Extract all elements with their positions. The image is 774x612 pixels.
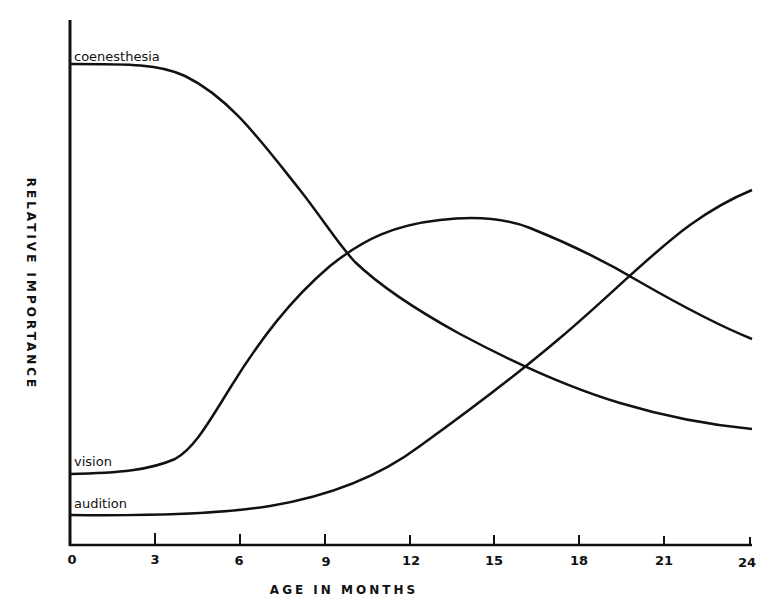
label-vision: vision bbox=[74, 454, 112, 469]
coenesthesia-curve bbox=[70, 64, 752, 429]
tick-label-21: 21 bbox=[655, 553, 673, 568]
tick-label-9: 9 bbox=[321, 554, 330, 569]
line-chart: 0 3 6 9 12 15 18 21 24 AGE IN MONTHS REL… bbox=[0, 0, 774, 612]
tick-label-24: 24 bbox=[738, 555, 756, 570]
tick-label-3: 3 bbox=[150, 552, 159, 567]
x-ticks bbox=[155, 533, 750, 545]
audition-curve bbox=[70, 190, 752, 515]
x-tick-labels: 0 3 6 9 12 15 18 21 24 bbox=[67, 552, 756, 570]
tick-label-0: 0 bbox=[67, 552, 76, 567]
y-axis-title: RELATIVE IMPORTANCE bbox=[24, 178, 38, 390]
label-coenesthesia: coenesthesia bbox=[74, 49, 160, 64]
x-axis-title: AGE IN MONTHS bbox=[270, 583, 418, 597]
tick-label-18: 18 bbox=[570, 553, 588, 568]
tick-label-12: 12 bbox=[402, 553, 420, 568]
label-audition: audition bbox=[74, 496, 127, 511]
tick-label-15: 15 bbox=[485, 553, 503, 568]
tick-label-6: 6 bbox=[234, 553, 243, 568]
